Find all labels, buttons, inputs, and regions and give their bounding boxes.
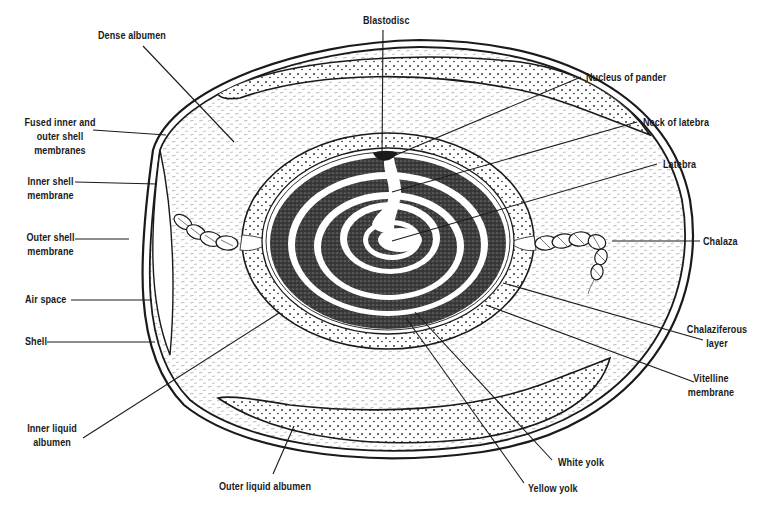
label-outer-shell-membrane: Outer shell membrane [18,230,83,258]
label-neck-of-latebra: Neck of latebra [643,115,709,129]
label-shell: Shell [25,334,47,348]
label-blastodisc: Blastodisc [363,13,410,27]
label-nucleus-of-pander: Nucleus of pander [586,70,666,84]
label-yellow-yolk: Yellow yolk [528,481,578,495]
label-dense-albumen: Dense albumen [98,28,166,42]
label-vitelline-membrane: Vitelline membrane [681,371,741,399]
label-outer-liquid-albumen: Outer liquid albumen [219,479,311,493]
label-inner-liquid-albumen: Inner liquid albumen [18,421,87,449]
label-air-space: Air space [25,292,66,306]
label-fused-membranes: Fused inner and outer shell membranes [17,115,103,157]
label-white-yolk: White yolk [558,455,604,469]
label-chalaza: Chalaza [703,234,738,248]
label-chalaziferous-layer: Chalaziferous layer [683,322,752,350]
label-latebra: Latebra [663,157,696,171]
label-inner-shell-membrane: Inner shell membrane [18,174,83,202]
